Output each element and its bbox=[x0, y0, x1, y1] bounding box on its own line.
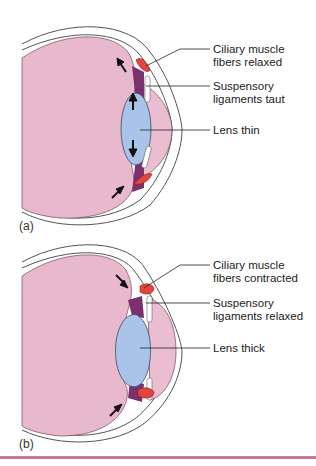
label-suspensory-ligaments-b: Suspensory ligaments relaxed bbox=[213, 297, 303, 323]
label-lens-a: Lens thin bbox=[213, 124, 260, 137]
ciliary-muscle-b-top bbox=[140, 284, 154, 294]
label-line: Suspensory bbox=[213, 80, 285, 93]
panel-b-eye bbox=[22, 245, 210, 442]
label-suspensory-ligaments-a: Suspensory ligaments taut bbox=[213, 80, 285, 106]
lens-thick bbox=[116, 315, 151, 387]
eye-diagram bbox=[0, 0, 316, 466]
bottom-rule bbox=[0, 456, 316, 459]
label-line: Ciliary muscle bbox=[213, 259, 298, 272]
label-line: Suspensory bbox=[213, 297, 303, 310]
label-line: fibers relaxed bbox=[213, 56, 285, 69]
label-line: Ciliary muscle bbox=[213, 43, 285, 56]
label-lens-b: Lens thick bbox=[213, 342, 265, 355]
panel-a-eye bbox=[22, 27, 210, 225]
panel-label-b: (b) bbox=[19, 437, 34, 451]
panel-label-a: (a) bbox=[19, 219, 34, 233]
label-ciliary-muscle-a: Ciliary muscle fibers relaxed bbox=[213, 43, 285, 69]
label-ciliary-muscle-b: Ciliary muscle fibers contracted bbox=[213, 259, 298, 285]
label-line: ligaments taut bbox=[213, 93, 285, 106]
ciliary-muscle-b-bottom bbox=[138, 388, 154, 398]
label-line: fibers contracted bbox=[213, 272, 298, 285]
label-line: ligaments relaxed bbox=[213, 310, 303, 323]
